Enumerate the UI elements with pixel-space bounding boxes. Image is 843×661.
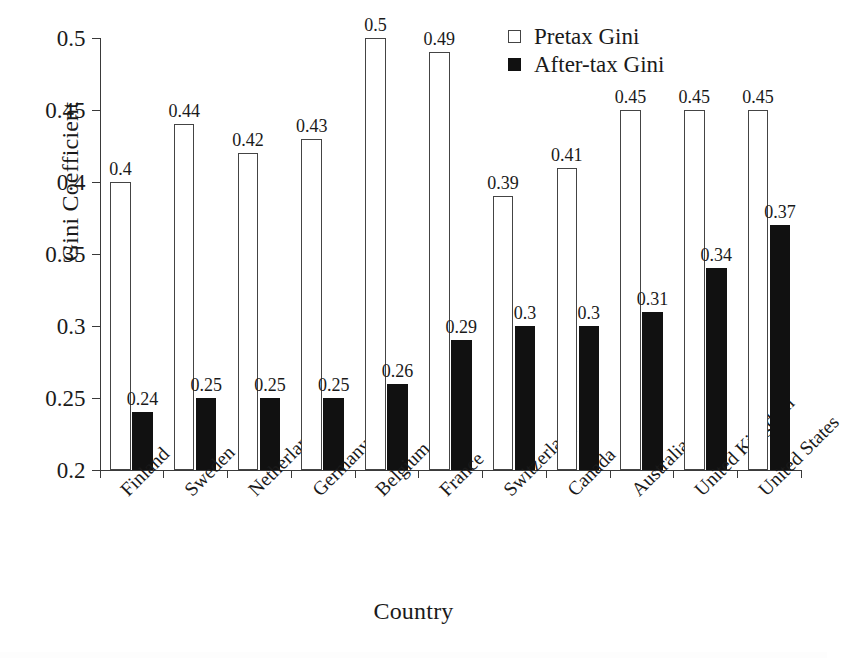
bar-value-label-pretax: 0.45 <box>664 88 724 106</box>
y-axis-tick-mark <box>92 398 100 399</box>
chart-legend: Pretax Gini After-tax Gini <box>508 22 664 78</box>
bar-pretax-gini <box>684 110 705 470</box>
bar-value-label-after-tax: 0.29 <box>431 318 491 336</box>
x-axis-tick-mark <box>100 470 101 478</box>
bar-value-label-after-tax: 0.25 <box>304 376 364 394</box>
x-axis-tick-mark <box>227 470 228 478</box>
bar-value-label-pretax: 0.4 <box>90 160 150 178</box>
bar-value-label-pretax: 0.49 <box>409 30 469 48</box>
bar-value-label-pretax: 0.42 <box>218 131 278 149</box>
bar-after-tax-gini <box>770 225 791 470</box>
x-axis-tick-mark <box>546 470 547 478</box>
x-axis-tick-mark <box>801 470 802 478</box>
legend-label-after-tax-gini: After-tax Gini <box>534 53 664 76</box>
y-axis-tick-label: 0.4 <box>26 171 86 194</box>
y-axis-tick-label: 0.5 <box>26 27 86 50</box>
bar-value-label-pretax: 0.44 <box>154 102 214 120</box>
bar-value-label-pretax: 0.43 <box>282 117 342 135</box>
y-axis-tick-mark <box>92 470 100 471</box>
x-axis-tick-mark <box>418 470 419 478</box>
x-axis-tick-mark <box>482 470 483 478</box>
bar-value-label-after-tax: 0.25 <box>176 376 236 394</box>
bar-value-label-after-tax: 0.34 <box>686 246 746 264</box>
legend-label-pretax-gini: Pretax Gini <box>534 25 639 48</box>
filled-square-icon <box>508 58 521 71</box>
y-axis-tick-label: 0.3 <box>26 315 86 338</box>
x-axis-tick-mark <box>610 470 611 478</box>
bar-pretax-gini <box>301 139 322 470</box>
bar-value-label-pretax: 0.41 <box>537 146 597 164</box>
bar-pretax-gini <box>110 182 131 470</box>
y-axis-tick-mark <box>92 254 100 255</box>
bar-pretax-gini <box>365 38 386 470</box>
bar-after-tax-gini <box>515 326 536 470</box>
bar-after-tax-gini <box>706 268 727 470</box>
bar-value-label-pretax: 0.39 <box>473 174 533 192</box>
bar-value-label-after-tax: 0.31 <box>623 290 683 308</box>
y-axis-tick-mark <box>92 182 100 183</box>
y-axis-tick-label: 0.45 <box>26 99 86 122</box>
bar-after-tax-gini <box>642 312 663 470</box>
legend-item-pretax-gini: Pretax Gini <box>508 22 664 50</box>
bar-value-label-after-tax: 0.26 <box>367 362 427 380</box>
bar-value-label-after-tax: 0.3 <box>495 304 555 322</box>
hollow-square-icon <box>508 30 521 43</box>
bar-pretax-gini <box>493 196 514 470</box>
bar-pretax-gini <box>238 153 259 470</box>
bar-value-label-after-tax: 0.37 <box>750 203 810 221</box>
y-axis-tick-label: 0.2 <box>26 459 86 482</box>
legend-item-after-tax-gini: After-tax Gini <box>508 50 664 78</box>
y-axis-line <box>100 38 101 470</box>
bar-pretax-gini <box>429 52 450 470</box>
bar-pretax-gini <box>748 110 769 470</box>
y-axis-tick-mark <box>92 38 100 39</box>
bar-after-tax-gini <box>579 326 600 470</box>
x-axis-tick-mark <box>737 470 738 478</box>
x-axis-tick-mark <box>673 470 674 478</box>
x-axis-title: Country <box>0 598 827 625</box>
y-axis-tick-mark <box>92 326 100 327</box>
bar-value-label-after-tax: 0.3 <box>559 304 619 322</box>
bar-value-label-pretax: 0.5 <box>345 16 405 34</box>
scan-artifact-strip <box>0 652 827 658</box>
y-axis-tick-label: 0.35 <box>26 243 86 266</box>
y-axis-tick-label: 0.25 <box>26 387 86 410</box>
bar-value-label-pretax: 0.45 <box>601 88 661 106</box>
x-axis-tick-mark <box>291 470 292 478</box>
bar-value-label-pretax: 0.45 <box>728 88 788 106</box>
x-axis-tick-mark <box>355 470 356 478</box>
bar-value-label-after-tax: 0.25 <box>240 376 300 394</box>
y-axis-tick-mark <box>92 110 100 111</box>
bar-value-label-after-tax: 0.24 <box>112 390 172 408</box>
x-axis-tick-mark <box>163 470 164 478</box>
bar-pretax-gini <box>174 124 195 470</box>
